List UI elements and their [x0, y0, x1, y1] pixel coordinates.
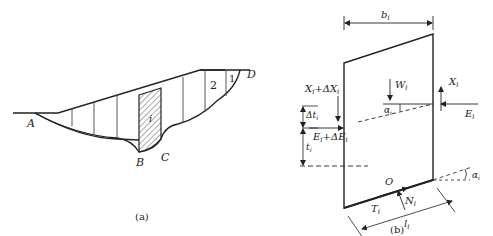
alpha-inner-label: αi: [384, 105, 392, 116]
delta-t-label: Δti: [305, 110, 318, 121]
point-a-label: A: [26, 117, 35, 130]
base-shear-label: Ti: [371, 203, 380, 216]
base-length-label: li: [404, 218, 409, 231]
slice-1-label: 1: [229, 73, 235, 84]
shear-left-label: Xi+ΔXi: [304, 83, 339, 96]
point-d-label: D: [246, 68, 256, 81]
figure-a-slope: A B C D 2 1 i (a): [13, 68, 256, 222]
origin-label: O: [385, 176, 393, 187]
slice-method-diagram: A B C D 2 1 i (a) bi Wi αi Xi Ei: [0, 0, 493, 236]
point-c-label: C: [161, 151, 170, 164]
t-label: ti: [306, 142, 312, 153]
normal-left-label: Ei+ΔEi: [312, 131, 348, 144]
caption-b: (b): [390, 224, 404, 235]
shear-right-label: Xi: [448, 76, 458, 89]
slice-2-label: 2: [210, 79, 217, 92]
point-b-label: B: [135, 156, 144, 169]
alpha-base-label: αi: [472, 170, 480, 181]
length-tick-right: [437, 188, 455, 212]
width-label: bi: [381, 9, 390, 22]
length-tick-left: [348, 216, 363, 236]
base-normal-label: Ni: [404, 195, 416, 208]
base-shear-arrow: [377, 188, 407, 197]
slice-i-label: i: [149, 113, 152, 124]
base-angle-arc: [465, 169, 467, 179]
base-normal-arrow: [398, 191, 405, 210]
line-of-thrust: [358, 104, 433, 122]
ground-surface: [13, 70, 225, 113]
slip-surface-ab: [35, 113, 139, 140]
weight-label: Wi: [395, 79, 408, 92]
caption-a: (a): [135, 211, 149, 222]
figure-b-slice-forces: bi Wi αi Xi Ei Xi+ΔXi Ei+ΔEi Δti ti: [300, 9, 480, 236]
normal-right-label: Ei: [464, 108, 475, 121]
